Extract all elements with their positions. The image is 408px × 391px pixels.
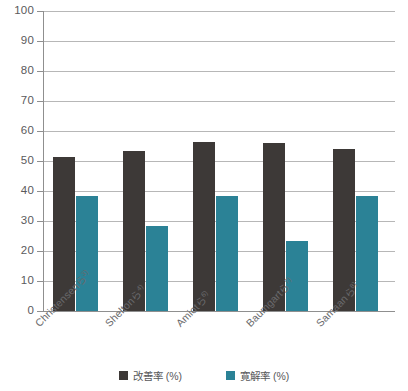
tick-mark-40: [37, 191, 44, 192]
bar-chart: 1009080706050403020100 Christensenら3)She…: [0, 0, 408, 391]
y-tick-label-100: 100: [0, 5, 34, 17]
y-tick-label-50: 50: [0, 155, 34, 167]
tick-mark-90: [37, 41, 44, 42]
legend-item-remission: 寛解率 (%): [226, 368, 289, 383]
tick-mark-10: [37, 281, 44, 282]
plot-area: [44, 11, 395, 311]
legend-item-improvement: 改善率 (%): [119, 368, 182, 383]
y-tick-label-60: 60: [0, 125, 34, 137]
y-tick-label-0: 0: [0, 305, 34, 317]
legend-swatch-improvement: [119, 371, 128, 380]
tick-mark-100: [37, 11, 44, 12]
tick-mark-50: [37, 161, 44, 162]
tick-mark-80: [37, 71, 44, 72]
tick-mark-60: [37, 131, 44, 132]
y-tick-label-80: 80: [0, 65, 34, 77]
y-tick-label-10: 10: [0, 275, 34, 287]
legend-label-remission: 寛解率 (%): [240, 368, 289, 383]
chart-legend: 改善率 (%) 寛解率 (%): [0, 368, 408, 383]
bar-4-series-1: [356, 196, 378, 312]
bar-2-series-0: [193, 142, 215, 312]
y-tick-label-40: 40: [0, 185, 34, 197]
bar-0-series-1: [76, 196, 98, 312]
gridline-0: [44, 311, 395, 312]
y-tick-label-90: 90: [0, 35, 34, 47]
tick-mark-20: [37, 251, 44, 252]
legend-swatch-remission: [226, 371, 235, 380]
bar-group-3: [263, 11, 308, 311]
tick-mark-30: [37, 221, 44, 222]
bar-group-1: [123, 11, 168, 311]
legend-label-improvement: 改善率 (%): [133, 368, 182, 383]
y-tick-label-70: 70: [0, 95, 34, 107]
bar-3-series-1: [286, 241, 308, 312]
bar-group-2: [193, 11, 238, 311]
y-tick-label-20: 20: [0, 245, 34, 257]
bar-1-series-1: [146, 226, 168, 312]
y-tick-label-30: 30: [0, 215, 34, 227]
bar-group-0: [53, 11, 98, 311]
bar-2-series-1: [216, 196, 238, 312]
bar-group-4: [333, 11, 378, 311]
tick-mark-70: [37, 101, 44, 102]
